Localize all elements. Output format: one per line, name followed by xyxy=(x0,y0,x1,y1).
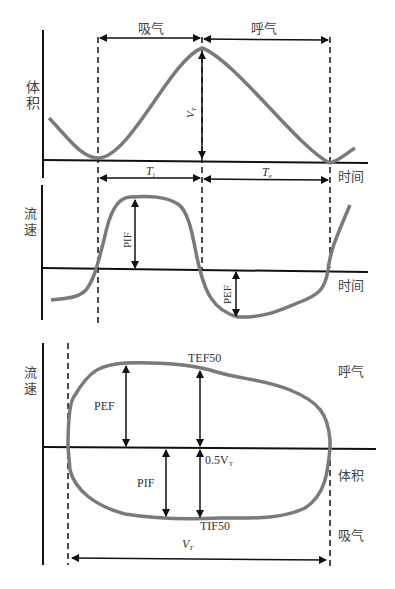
pef-label: PEF xyxy=(94,399,115,413)
svg-text:Ti: Ti xyxy=(146,164,155,179)
svg-text:VT: VT xyxy=(184,106,198,118)
volume-time-panel: 体 积 吸气 呼气 时间 VT Ti Te xyxy=(26,21,368,325)
ylabel-flow-2: 速 xyxy=(24,222,37,237)
ylabel-flow-2: 速 xyxy=(24,381,37,396)
flow-curve xyxy=(51,197,350,318)
inhale-label: 吸气 xyxy=(138,21,164,36)
ylabel-volume-1: 体 xyxy=(26,79,40,95)
x-axis xyxy=(43,160,368,163)
flow-volume-loop xyxy=(68,363,330,519)
ylabel-volume-2: 积 xyxy=(26,95,40,111)
respiratory-diagram: 体 积 吸气 呼气 时间 VT Ti Te 流 速 时间 PIF PEF xyxy=(0,0,395,589)
svg-text:0.5VT: 0.5VT xyxy=(205,453,234,468)
xlabel-time-1: 时间 xyxy=(338,169,364,184)
half-vt-label: 0.5V xyxy=(205,453,229,467)
pif-label: PIF xyxy=(121,232,133,248)
te-arrow xyxy=(204,179,328,180)
ylabel-flow-1: 流 xyxy=(24,365,37,380)
svg-text:VT: VT xyxy=(182,537,194,552)
flow-volume-panel: 流 速 呼气 体积 吸气 TEF50 PEF PIF TIF50 0.5VT V… xyxy=(24,343,376,570)
x-axis xyxy=(42,268,368,272)
x-axis xyxy=(43,447,376,449)
tef50-label: TEF50 xyxy=(188,351,221,365)
svg-text:Te: Te xyxy=(262,165,272,180)
flow-time-panel: 流 速 时间 PIF PEF xyxy=(24,185,368,320)
vt-arrow xyxy=(72,558,326,560)
pef-label: PEF xyxy=(221,285,233,304)
inhale-label: 吸气 xyxy=(338,528,364,543)
exhale-label: 呼气 xyxy=(251,21,277,36)
tif50-label: TIF50 xyxy=(200,519,230,533)
exhale-arrow xyxy=(204,39,328,40)
xlabel-volume: 体积 xyxy=(338,468,364,483)
pif-label: PIF xyxy=(137,476,155,490)
xlabel-time-2: 时间 xyxy=(338,278,364,293)
exhale-label: 呼气 xyxy=(338,364,364,379)
ylabel-flow-1: 流 xyxy=(24,206,37,221)
